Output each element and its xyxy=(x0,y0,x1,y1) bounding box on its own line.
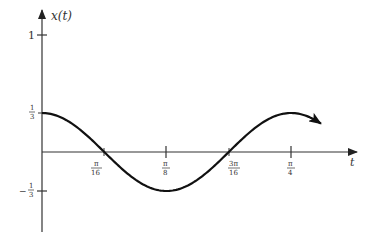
svg-text:3π: 3π xyxy=(229,160,238,168)
y-axis-label: x(t) xyxy=(51,9,72,23)
svg-text:1: 1 xyxy=(30,104,34,112)
svg-text:16: 16 xyxy=(229,169,238,177)
x-tick-label-pi-16: π 16 xyxy=(91,160,102,177)
svg-text:1: 1 xyxy=(29,182,33,190)
svg-text:π: π xyxy=(163,160,168,168)
svg-text:−: − xyxy=(19,186,27,196)
svg-text:3: 3 xyxy=(30,113,34,121)
svg-text:8: 8 xyxy=(163,169,167,177)
x-tick-label-pi-8: π 8 xyxy=(162,160,170,177)
x-axis-label: t xyxy=(350,156,355,169)
chart: x(t) t 1 1 3 − 1 3 π 16 π 8 3π 16 π 4 xyxy=(0,0,372,240)
y-tick-label-1: 1 xyxy=(28,29,35,42)
svg-text:π: π xyxy=(288,160,293,168)
y-tick-label-neg-1-3: − 1 3 xyxy=(19,182,34,199)
x-tick-label-3pi-16: 3π 16 xyxy=(228,160,240,177)
svg-text:3: 3 xyxy=(29,191,33,199)
x-tick-label-pi-4: π 4 xyxy=(287,160,295,177)
svg-text:4: 4 xyxy=(288,169,293,177)
svg-text:π: π xyxy=(94,160,99,168)
y-tick-label-1-3: 1 3 xyxy=(29,104,35,121)
svg-text:16: 16 xyxy=(91,169,100,177)
